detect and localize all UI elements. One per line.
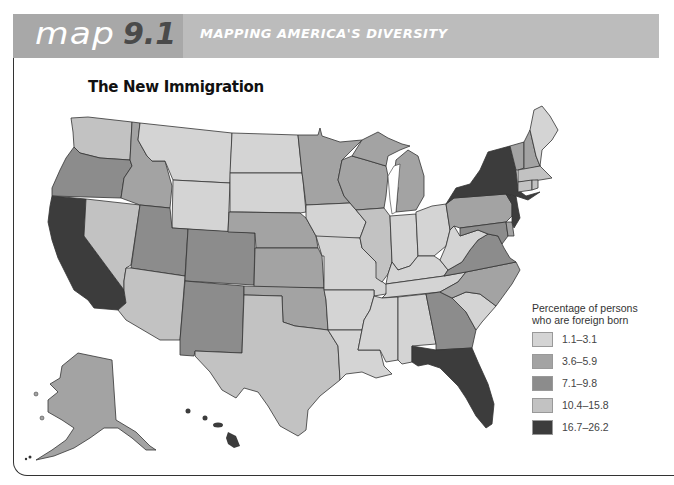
aleutian-island bbox=[29, 456, 32, 459]
state-ri bbox=[532, 180, 538, 190]
state-az bbox=[118, 268, 185, 340]
legend-title-line1: Percentage of persons bbox=[532, 302, 659, 314]
legend-swatch bbox=[532, 354, 553, 369]
state-wy bbox=[172, 180, 230, 232]
hawaii-kauai bbox=[186, 409, 191, 414]
state-sd bbox=[230, 173, 306, 213]
hawaii-oahu bbox=[203, 416, 208, 421]
legend-title-line2: who are foreign born bbox=[532, 314, 659, 326]
state-ks bbox=[254, 248, 324, 288]
legend-item: 1.1–3.1 bbox=[532, 330, 659, 348]
state-co bbox=[185, 229, 255, 285]
state-ct bbox=[518, 180, 532, 192]
legend-label: 10.4–15.8 bbox=[562, 399, 609, 411]
hawaii-maui bbox=[213, 423, 223, 428]
hawaii-big-island bbox=[226, 432, 240, 448]
aleutian-island bbox=[40, 416, 44, 420]
state-nm bbox=[180, 281, 244, 356]
legend-swatch bbox=[532, 398, 553, 413]
legend-label: 3.6–5.9 bbox=[562, 355, 597, 367]
legend-label: 7.1–9.8 bbox=[562, 377, 597, 389]
legend-item: 10.4–15.8 bbox=[532, 396, 659, 414]
aleutian-island bbox=[25, 458, 27, 460]
legend-item: 16.7–26.2 bbox=[532, 418, 659, 436]
legend-item: 7.1–9.8 bbox=[532, 374, 659, 392]
legend-swatch bbox=[532, 376, 553, 391]
aleutian-island bbox=[34, 392, 38, 396]
legend-item: 3.6–5.9 bbox=[532, 352, 659, 370]
legend-swatch bbox=[532, 420, 553, 435]
legend-label: 16.7–26.2 bbox=[562, 421, 609, 433]
state-nd bbox=[230, 133, 302, 173]
legend-label: 1.1–3.1 bbox=[562, 333, 597, 345]
legend-swatch bbox=[532, 332, 553, 347]
legend: Percentage of persons who are foreign bo… bbox=[532, 302, 659, 436]
state-ak bbox=[36, 353, 156, 460]
state-fl bbox=[412, 346, 494, 428]
